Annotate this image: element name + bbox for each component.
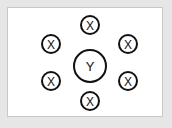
satellite-node: X xyxy=(42,72,60,90)
diagram-canvas: Y X X X X X X xyxy=(0,0,172,128)
satellite-node: X xyxy=(119,35,137,53)
satellite-node: X xyxy=(42,35,60,53)
satellite-node: X xyxy=(81,16,99,34)
svg-text:X: X xyxy=(86,19,94,33)
satellite-node: X xyxy=(81,92,99,110)
svg-text:X: X xyxy=(47,38,55,52)
svg-text:X: X xyxy=(124,38,132,52)
svg-text:X: X xyxy=(47,75,55,89)
svg-text:X: X xyxy=(124,75,132,89)
center-node: Y xyxy=(74,50,106,82)
svg-text:X: X xyxy=(86,95,94,109)
satellite-node: X xyxy=(119,72,137,90)
svg-text:Y: Y xyxy=(86,59,95,74)
